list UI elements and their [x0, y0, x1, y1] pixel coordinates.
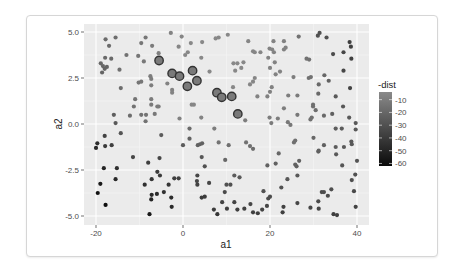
data-point	[256, 211, 260, 215]
data-point	[207, 69, 211, 73]
legend-tick-label: -60	[395, 159, 407, 168]
data-point	[258, 50, 262, 54]
data-point	[317, 207, 321, 211]
data-point	[155, 192, 159, 196]
data-point	[133, 97, 137, 101]
data-point	[100, 70, 104, 74]
data-point	[266, 56, 270, 60]
data-point	[329, 187, 333, 191]
data-point	[207, 181, 211, 185]
legend-tick-label: -40	[395, 134, 407, 143]
data-point	[268, 90, 272, 94]
y-tick-label: 0.0	[68, 120, 80, 129]
x-tick-label: 20	[266, 229, 275, 238]
data-point	[109, 57, 113, 61]
data-point	[244, 140, 248, 144]
legend: -dist -10-20-30-40-50-60	[378, 79, 407, 168]
data-point	[165, 81, 169, 85]
data-point	[295, 201, 299, 205]
data-point	[311, 104, 315, 108]
data-point	[200, 155, 204, 159]
data-point	[281, 205, 285, 209]
legend-tick-label: -50	[395, 147, 407, 156]
data-point	[235, 61, 239, 65]
scatter-chart: -2002040 -5.0-2.50.02.55.0 a1 a2 -dist -…	[0, 0, 460, 268]
data-point	[253, 76, 257, 80]
data-point	[340, 163, 344, 167]
legend-tick-label: -30	[395, 121, 407, 130]
data-point	[248, 202, 252, 206]
data-point	[159, 133, 163, 137]
data-point	[341, 50, 345, 54]
data-point	[273, 60, 277, 64]
data-point	[128, 114, 132, 118]
data-point	[232, 173, 236, 177]
data-point	[274, 161, 278, 165]
data-point	[342, 145, 346, 149]
data-point	[200, 40, 204, 44]
data-point	[310, 115, 314, 119]
data-point	[131, 155, 135, 159]
y-tick-label: -5.0	[65, 212, 79, 221]
colorbar	[379, 92, 392, 166]
data-point	[195, 183, 199, 187]
data-point	[158, 173, 162, 177]
data-point	[322, 114, 326, 118]
data-point	[103, 144, 107, 148]
highlighted-point	[234, 110, 242, 118]
data-point	[150, 44, 154, 48]
data-point	[157, 104, 161, 108]
highlighted-point	[175, 72, 183, 80]
data-point	[265, 204, 269, 208]
data-point	[143, 183, 147, 187]
data-point	[150, 177, 154, 181]
data-point	[225, 207, 229, 211]
data-point	[217, 140, 221, 144]
data-point	[149, 103, 153, 107]
data-point	[326, 194, 330, 198]
data-point	[317, 82, 321, 86]
data-point	[169, 196, 173, 200]
data-point	[170, 205, 174, 209]
data-point	[243, 118, 247, 122]
data-point	[241, 60, 245, 64]
data-point	[103, 56, 107, 60]
data-point	[231, 85, 235, 89]
data-point	[348, 40, 352, 44]
data-point	[103, 37, 107, 41]
data-point	[119, 131, 123, 135]
data-point	[113, 121, 117, 125]
data-point	[295, 93, 299, 97]
data-point	[349, 45, 353, 49]
data-point	[187, 137, 191, 141]
data-point	[187, 127, 191, 131]
data-point	[274, 72, 278, 76]
data-point	[96, 191, 100, 195]
data-point	[269, 121, 273, 125]
data-point	[271, 39, 275, 43]
data-point	[260, 207, 264, 211]
data-point	[355, 159, 359, 163]
data-point	[177, 176, 181, 180]
data-point	[349, 57, 353, 61]
highlighted-point	[155, 56, 163, 64]
data-point	[149, 83, 153, 87]
data-point	[98, 182, 102, 186]
data-point	[150, 193, 154, 197]
highlighted-point	[193, 77, 201, 85]
data-point	[353, 173, 357, 177]
data-point	[102, 166, 106, 170]
data-point	[199, 56, 203, 60]
highlighted-point	[183, 82, 191, 90]
data-point	[199, 115, 203, 119]
data-point	[157, 156, 161, 160]
data-point	[327, 79, 331, 83]
data-point	[124, 53, 128, 57]
data-point	[117, 68, 121, 72]
x-tick-label: 40	[353, 229, 362, 238]
highlighted-point	[188, 66, 196, 74]
data-point	[180, 35, 184, 39]
data-point	[281, 210, 285, 214]
data-point	[293, 138, 297, 142]
data-point	[251, 147, 255, 151]
